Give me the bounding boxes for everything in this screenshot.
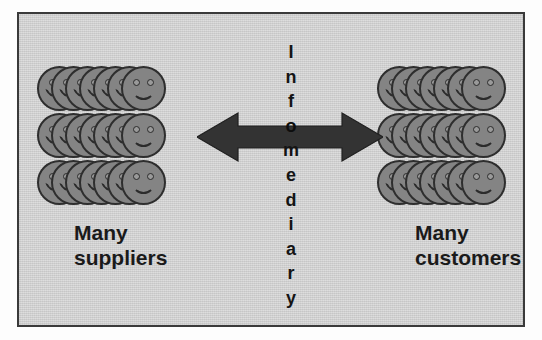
customer-face-cluster	[377, 66, 509, 207]
infomediary-letter: o	[274, 114, 308, 139]
infomediary-letter: e	[274, 163, 308, 188]
infomediary-letter: n	[274, 65, 308, 90]
face-row	[37, 66, 169, 111]
face-eye-right	[147, 173, 154, 180]
infomediary-letter: i	[274, 212, 308, 237]
infomediary-letter: y	[274, 286, 308, 311]
face-eye-right	[147, 126, 154, 133]
label-line-2: customers	[415, 245, 521, 270]
infomediary-letter: m	[274, 138, 308, 163]
face-eye-left	[473, 79, 480, 86]
smiley-face-icon	[461, 66, 506, 111]
face-row	[377, 66, 509, 111]
face-eye-left	[133, 79, 140, 86]
face-eye-right	[487, 173, 494, 180]
face-smile	[472, 133, 495, 147]
face-row	[37, 160, 169, 205]
smiley-face-icon	[121, 113, 166, 158]
smiley-face-icon	[461, 113, 506, 158]
infomediary-letter: r	[274, 261, 308, 286]
diagram-panel: Infomediary Manysuppliers Manycustomers	[17, 12, 525, 327]
label-line-2: suppliers	[74, 245, 167, 270]
infomediary-letter: d	[274, 188, 308, 213]
face-row	[377, 160, 509, 205]
face-eye-left	[473, 173, 480, 180]
face-smile	[132, 180, 155, 194]
infomediary-diagram: Infomediary Manysuppliers Manycustomers	[0, 0, 542, 340]
infomediary-letter: a	[274, 237, 308, 262]
smiley-face-icon	[461, 160, 506, 205]
face-eye-left	[473, 126, 480, 133]
face-smile	[132, 133, 155, 147]
label-line-1: Many	[415, 220, 521, 245]
infomediary-letter: I	[274, 40, 308, 65]
supplier-face-cluster	[37, 66, 169, 207]
face-row	[377, 113, 509, 158]
face-eye-right	[147, 79, 154, 86]
infomediary-label: Infomediary	[274, 40, 308, 311]
face-eye-left	[133, 126, 140, 133]
label-line-1: Many	[74, 220, 167, 245]
face-eye-right	[487, 126, 494, 133]
face-smile	[472, 180, 495, 194]
face-smile	[472, 86, 495, 100]
face-row	[37, 113, 169, 158]
smiley-face-icon	[121, 160, 166, 205]
suppliers-label: Manysuppliers	[74, 220, 167, 270]
face-smile	[132, 86, 155, 100]
face-eye-right	[487, 79, 494, 86]
face-eye-left	[133, 173, 140, 180]
infomediary-letter: f	[274, 89, 308, 114]
smiley-face-icon	[121, 66, 166, 111]
customers-label: Manycustomers	[415, 220, 521, 270]
